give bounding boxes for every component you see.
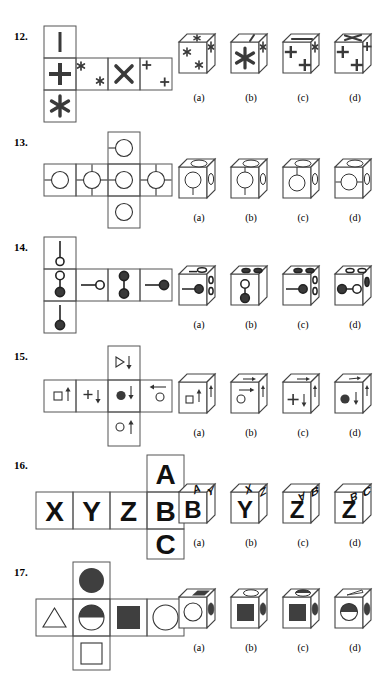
problem-13-option-c[interactable] — [279, 153, 327, 209]
problem-14-net — [36, 233, 186, 337]
problem-16-option-c[interactable]: Z A B — [279, 478, 327, 534]
problem-17-number: 17. — [14, 566, 28, 578]
problem-16-net: A X Y Z B C — [30, 451, 186, 561]
glyph-filled-square — [117, 606, 140, 629]
problem-15-label-b: (b) — [227, 427, 275, 438]
problem-17-label-b: (b) — [227, 642, 275, 653]
problem-12-option-a[interactable] — [175, 28, 223, 84]
problem-15-label-d: (d) — [331, 427, 379, 438]
problem-14-label-d: (d) — [331, 319, 379, 330]
problem-16-option-d[interactable]: Z B C — [331, 478, 379, 534]
problem-15-option-d[interactable] — [331, 368, 379, 424]
problem-14-number: 14. — [14, 241, 28, 253]
problem-13-label-a: (a) — [175, 212, 223, 223]
problem-13-label-c: (c) — [279, 212, 327, 223]
problem-12-number: 12. — [14, 30, 28, 42]
problem-17-option-b[interactable] — [227, 583, 275, 639]
net-letter-Z: Z — [120, 496, 137, 527]
problem-12-option-d[interactable] — [331, 28, 379, 84]
problem-12-label-c: (c) — [279, 92, 327, 103]
glyph-big-x — [116, 66, 132, 82]
problem-13-net — [36, 128, 186, 232]
problem-16-label-d: (d) — [331, 537, 379, 548]
problem-14-label-a: (a) — [175, 319, 223, 330]
problem-14-option-c[interactable] — [279, 260, 327, 316]
glyph-vertical-bar — [59, 32, 62, 52]
net-letter-B: B — [155, 496, 175, 527]
problem-15-label-c: (c) — [279, 427, 327, 438]
glyph-triangle — [43, 608, 66, 627]
glyph-plus-bold — [49, 63, 71, 85]
problem-13-option-a[interactable] — [175, 153, 223, 209]
problem-16-label-a: (a) — [175, 537, 223, 548]
problem-16-label-b: (b) — [227, 537, 275, 548]
problem-17-option-c[interactable] — [279, 583, 327, 639]
glyph-open-square — [81, 643, 102, 664]
problem-14-option-d[interactable] — [331, 260, 379, 316]
net-letter-A: A — [155, 459, 175, 490]
glyph-two-small-asterisks — [78, 62, 104, 85]
problem-17-label-d: (d) — [331, 642, 379, 653]
problem-12-label-b: (b) — [227, 92, 275, 103]
glyph-filled-circle — [79, 568, 104, 593]
cube-folding-worksheet: 12. — [0, 0, 383, 688]
problem-16-option-a[interactable]: B A Y — [175, 478, 223, 534]
problem-16-option-b[interactable]: Y X Z — [227, 478, 275, 534]
problem-15-net — [36, 342, 186, 450]
problem-17-net — [30, 558, 186, 676]
net-letter-C: C — [155, 529, 175, 560]
problem-13-option-b[interactable] — [227, 153, 275, 209]
glyph-asterisk-bold — [52, 96, 69, 116]
problem-15-option-a[interactable] — [175, 368, 223, 424]
problem-17-label-a: (a) — [175, 642, 223, 653]
problem-16-number: 16. — [14, 459, 28, 471]
glyph-two-small-plus — [142, 61, 169, 87]
problem-16-label-c: (c) — [279, 537, 327, 548]
problem-12-net — [36, 22, 176, 126]
problem-12-option-c[interactable] — [279, 28, 327, 84]
problem-13-number: 13. — [14, 136, 28, 148]
net-letter-X: X — [45, 496, 64, 527]
problem-14-label-c: (c) — [279, 319, 327, 330]
net-letter-Y: Y — [82, 496, 101, 527]
problem-13-option-d[interactable] — [331, 153, 379, 209]
problem-12-label-d: (d) — [331, 92, 379, 103]
problem-12-option-b[interactable] — [227, 28, 275, 84]
problem-15-option-c[interactable] — [279, 368, 327, 424]
glyph-half-filled-circle — [79, 605, 104, 630]
cube-front-letter: B — [184, 496, 201, 523]
problem-17-option-a[interactable] — [175, 583, 223, 639]
problem-14-option-a[interactable] — [175, 260, 223, 316]
problem-15-label-a: (a) — [175, 427, 223, 438]
problem-12-label-a: (a) — [175, 92, 223, 103]
problem-13-label-d: (d) — [331, 212, 379, 223]
problem-17-label-c: (c) — [279, 642, 327, 653]
problem-14-option-b[interactable] — [227, 260, 275, 316]
problem-14-label-b: (b) — [227, 319, 275, 330]
problem-13-label-b: (b) — [227, 212, 275, 223]
cube-front-letter: Y — [237, 496, 253, 523]
problem-17-option-d[interactable] — [331, 583, 379, 639]
problem-15-number: 15. — [14, 350, 28, 362]
problem-15-option-b[interactable] — [227, 368, 275, 424]
